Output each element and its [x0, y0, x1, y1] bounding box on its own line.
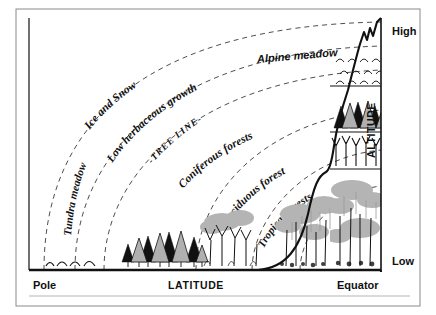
- axis-label-altitude: ALTITUDE: [365, 102, 377, 158]
- axis-label-equator: Equator: [337, 279, 379, 291]
- axis-label-high: High: [392, 25, 416, 37]
- axis-label-pole: Pole: [33, 279, 56, 291]
- axis-label-latitude: LATITUDE: [168, 279, 224, 291]
- diagram-canvas: Ice and Snow Low herbaceous growth -TREE…: [0, 0, 436, 315]
- axis-label-low: Low: [392, 255, 414, 267]
